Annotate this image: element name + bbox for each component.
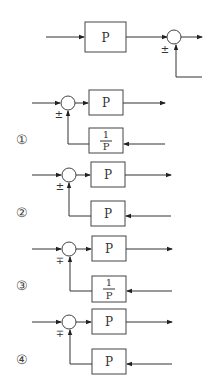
feedback-block-label: P (104, 207, 112, 221)
summer-sign: ± (56, 181, 64, 192)
summing-junction (62, 168, 76, 182)
forward-block-label: P (104, 168, 112, 182)
option-number: ① (16, 132, 28, 147)
feedback-numerator: 1 (106, 277, 112, 288)
feedback-path (69, 183, 91, 216)
summing-junction (62, 315, 76, 329)
option-number: ③ (16, 278, 28, 293)
option-number: ② (16, 205, 28, 220)
feedback-numerator: 1 (103, 129, 109, 140)
feedback-path (68, 111, 89, 144)
summing-junction (61, 96, 75, 110)
block-p-label: P (101, 31, 109, 45)
summer-sign: ∓ (56, 328, 64, 339)
forward-block-label: P (105, 242, 113, 256)
original-diagram: P ± (46, 22, 202, 77)
summer-sign: ± (161, 44, 169, 55)
second-input-arrow (176, 45, 202, 77)
feedback-denominator: P (106, 290, 113, 301)
option-2: P P ± ② (16, 162, 171, 226)
forward-block-label: P (102, 96, 110, 110)
feedback-path (70, 330, 92, 364)
summer-sign: ± (55, 109, 63, 120)
option-4: P P ∓ ④ (16, 309, 172, 374)
forward-block-label: P (105, 315, 113, 329)
summer-sign: ∓ (56, 255, 64, 266)
summing-junction (62, 242, 76, 256)
summing-junction (167, 30, 181, 44)
option-number: ④ (16, 352, 28, 367)
feedback-denominator: P (103, 141, 110, 152)
feedback-path (70, 257, 92, 291)
option-1: P 1 P ± ① (16, 90, 165, 153)
option-3: P 1 P ∓ ③ (16, 236, 172, 302)
feedback-block-label: P (105, 355, 113, 369)
